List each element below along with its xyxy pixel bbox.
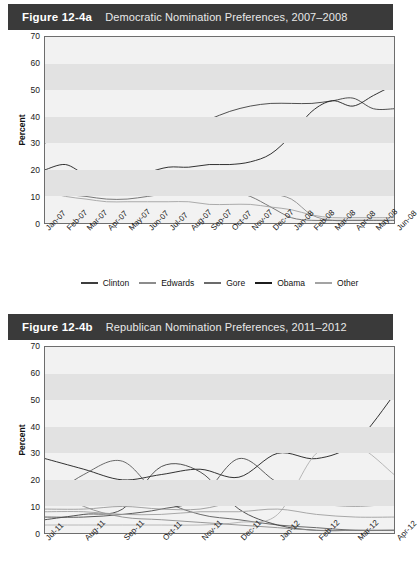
chart-b-plot-area: Percent 010203040506070 Jul-11Aug-11Sep-… (0, 346, 401, 534)
y-tick-mark (44, 64, 45, 65)
chart-grid-band (45, 117, 394, 144)
y-tick-label: 50 (18, 85, 40, 94)
y-tick-label: 60 (18, 369, 40, 378)
y-tick-mark (44, 37, 45, 38)
y-tick-mark (44, 427, 45, 428)
legend-item-obama: Obama (255, 278, 305, 288)
y-tick-label: 10 (18, 193, 40, 202)
y-tick-mark (44, 117, 45, 118)
chart-grid-band (45, 170, 394, 197)
x-tick-label: Apr-12 (395, 519, 418, 542)
y-tick-label: 40 (18, 112, 40, 121)
y-tick-mark (44, 453, 45, 454)
legend-label: Obama (277, 278, 305, 288)
chart-grid-band (45, 427, 394, 454)
legend-swatch-icon (315, 282, 332, 284)
y-tick-mark (44, 143, 45, 144)
y-tick-label: 30 (18, 139, 40, 148)
legend-swatch-icon (204, 282, 221, 284)
y-tick-label: 60 (18, 59, 40, 68)
figure-12-4b: Figure 12-4b Republican Nomination Prefe… (0, 310, 401, 574)
legend-label: Other (337, 278, 358, 288)
chart-a-y-tick-labels: 010203040506070 (16, 36, 40, 224)
y-tick-mark (44, 480, 45, 481)
chart-grid-band (45, 374, 394, 401)
y-tick-label: 70 (18, 32, 40, 41)
y-tick-label: 0 (18, 530, 40, 539)
legend-label: Clinton (103, 278, 129, 288)
y-tick-label: 70 (18, 342, 40, 351)
figure-a-header: Figure 12-4a Democratic Nomination Prefe… (8, 4, 393, 30)
figure-a-number: Figure 12-4a (22, 11, 92, 23)
figure-b-title: Republican Nomination Preferences, 2011–… (106, 321, 347, 333)
y-tick-label: 50 (18, 395, 40, 404)
chart-b-canvas (44, 346, 395, 534)
y-tick-label: 20 (18, 166, 40, 175)
legend-item-clinton: Clinton (81, 278, 129, 288)
legend-item-edwards: Edwards (139, 278, 194, 288)
legend-swatch-icon (81, 282, 98, 284)
y-tick-label: 20 (18, 476, 40, 485)
figure-a-title: Democratic Nomination Preferences, 2007–… (105, 11, 347, 23)
y-tick-mark (44, 347, 45, 348)
chart-a-x-tick-labels: Jan-07Feb-07Mar-07Apr-07May-07Jun-07Jul-… (44, 224, 395, 278)
chart-grid-band (45, 64, 394, 91)
legend-swatch-icon (255, 282, 272, 284)
y-tick-mark (44, 400, 45, 401)
y-tick-label: 40 (18, 422, 40, 431)
y-tick-mark (44, 196, 45, 197)
legend-label: Gore (226, 278, 245, 288)
y-tick-mark (44, 506, 45, 507)
figure-12-4a: Figure 12-4a Democratic Nomination Prefe… (0, 0, 401, 302)
chart-a-canvas (44, 36, 395, 224)
chart-b-x-tick-labels: Jul-11Aug-11Sep-11Oct-11Nov-11Dec-11Jan-… (44, 534, 395, 574)
legend-item-gore: Gore (204, 278, 245, 288)
y-tick-mark (44, 90, 45, 91)
legend-label: Edwards (161, 278, 194, 288)
legend-item-other: Other (315, 278, 358, 288)
y-tick-label: 30 (18, 449, 40, 458)
y-tick-label: 10 (18, 503, 40, 512)
chart-grid-band (45, 480, 394, 507)
y-tick-label: 0 (18, 220, 40, 229)
chart-a-legend: ClintonEdwardsGoreObamaOther (44, 278, 395, 288)
figure-b-header: Figure 12-4b Republican Nomination Prefe… (8, 314, 393, 340)
figure-b-number: Figure 12-4b (22, 321, 93, 333)
y-tick-mark (44, 374, 45, 375)
chart-b-y-tick-labels: 010203040506070 (16, 346, 40, 534)
legend-swatch-icon (139, 282, 156, 284)
chart-a-plot-area: Percent 010203040506070 Jan-07Feb-07Mar-… (0, 36, 401, 224)
y-tick-mark (44, 170, 45, 171)
